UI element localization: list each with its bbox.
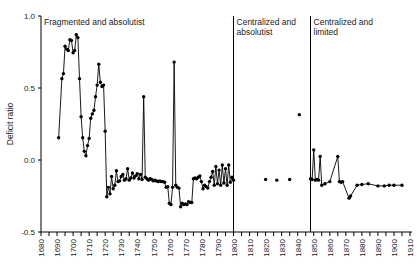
data-point xyxy=(216,182,219,185)
x-tick-label: 1740 xyxy=(133,238,142,256)
data-point xyxy=(230,176,233,179)
y-axis-tick-labels: -0.50.00.51.0 xyxy=(21,12,35,237)
y-axis-title: Deficit ratio xyxy=(5,102,15,145)
data-point xyxy=(392,184,395,187)
data-point xyxy=(142,95,145,98)
data-point xyxy=(200,180,203,183)
data-point xyxy=(288,178,291,181)
data-point xyxy=(328,180,331,183)
x-tick-label: 1890 xyxy=(374,238,383,256)
data-point xyxy=(62,72,65,75)
data-point xyxy=(208,180,211,183)
data-point xyxy=(225,184,228,187)
data-point xyxy=(81,136,84,139)
data-point xyxy=(349,194,352,197)
data-point xyxy=(229,181,232,184)
data-point xyxy=(224,167,227,170)
data-point xyxy=(264,178,267,181)
data-point xyxy=(206,186,209,189)
data-point xyxy=(179,205,182,208)
data-point xyxy=(310,178,313,181)
data-point xyxy=(92,109,95,112)
y-tick-label: -0.5 xyxy=(21,228,35,237)
y-tick-label: 0.5 xyxy=(24,84,36,93)
x-tick-label: 1830 xyxy=(278,238,287,256)
chart-container: -0.50.00.51.0 16801690170017101720173017… xyxy=(0,0,418,271)
x-tick-label: 1880 xyxy=(358,238,367,256)
data-point xyxy=(76,36,79,39)
panel-labels: Fragmented and absolutistCentralized and… xyxy=(44,17,373,37)
series-line-centralized-limited xyxy=(311,150,402,198)
panel-label-centralized-limited: Centralized and xyxy=(314,17,374,27)
data-point xyxy=(317,178,320,181)
data-point xyxy=(320,184,323,187)
panel-divider-lines xyxy=(234,16,311,232)
data-point xyxy=(222,181,225,184)
panel-label-centralized-limited: limited xyxy=(314,27,339,37)
data-point xyxy=(112,187,115,190)
x-tick-label: 1680 xyxy=(37,238,46,256)
data-point xyxy=(219,184,222,187)
data-point xyxy=(341,180,344,183)
x-tick-label: 1690 xyxy=(53,238,62,256)
x-tick-label: 1840 xyxy=(294,238,303,256)
data-point xyxy=(221,163,224,166)
x-tick-label: 1770 xyxy=(182,238,191,256)
x-tick-label: 1720 xyxy=(101,238,110,256)
x-tick-label: 1760 xyxy=(166,238,175,256)
x-tick-label: 1700 xyxy=(69,238,78,256)
data-point xyxy=(89,117,92,120)
data-point xyxy=(67,49,70,52)
data-point xyxy=(137,177,140,180)
x-tick-label: 1750 xyxy=(150,238,159,256)
y-tick-label: 1.0 xyxy=(24,12,36,21)
data-point xyxy=(110,175,113,178)
data-point xyxy=(139,173,142,176)
x-tick-label: 1900 xyxy=(390,238,399,256)
x-tick-label: 1870 xyxy=(342,238,351,256)
data-point xyxy=(383,184,386,187)
data-point xyxy=(73,49,76,52)
data-point xyxy=(70,39,73,42)
data-point xyxy=(103,130,106,133)
data-point xyxy=(355,184,358,187)
series-markers xyxy=(57,33,404,208)
data-point xyxy=(209,176,212,179)
data-point xyxy=(275,178,278,181)
data-point xyxy=(57,136,60,139)
data-point xyxy=(214,165,217,168)
data-point xyxy=(121,173,124,176)
data-point xyxy=(131,171,134,174)
data-point xyxy=(124,177,127,180)
data-point xyxy=(172,60,175,63)
data-point xyxy=(367,182,370,185)
data-point xyxy=(115,169,118,172)
data-point xyxy=(79,115,82,118)
x-tick-label: 1730 xyxy=(117,238,126,256)
data-point xyxy=(97,63,100,66)
data-point xyxy=(99,81,102,84)
x-tick-label: 1820 xyxy=(262,238,271,256)
x-tick-label: 1790 xyxy=(214,238,223,256)
data-point xyxy=(217,168,220,171)
y-tick-label: 0.0 xyxy=(24,156,36,165)
panel-label-centralized-absolutist: absolutist xyxy=(237,27,274,37)
x-tick-label: 1810 xyxy=(246,238,255,256)
x-tick-label: 1910 xyxy=(406,238,415,256)
data-point xyxy=(84,154,87,157)
x-axis-tick-labels: 1680169017001710172017301740175017601770… xyxy=(37,238,415,256)
data-point xyxy=(185,203,188,206)
data-point xyxy=(95,83,98,86)
data-point xyxy=(166,185,169,188)
data-point xyxy=(91,112,94,115)
data-point xyxy=(171,186,174,189)
data-point xyxy=(163,181,166,184)
data-point xyxy=(198,174,201,177)
data-point xyxy=(136,172,139,175)
x-tick-label: 1800 xyxy=(230,238,239,256)
data-point xyxy=(298,113,301,116)
data-point xyxy=(323,182,326,185)
data-point xyxy=(94,95,97,98)
data-point xyxy=(60,77,63,80)
deficit-ratio-chart: -0.50.00.51.0 16801690170017101720173017… xyxy=(0,0,418,271)
